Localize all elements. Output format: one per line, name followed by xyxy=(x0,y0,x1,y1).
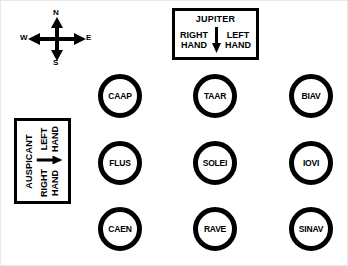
compass-north-label: N xyxy=(53,9,59,17)
node-sinav-label: SINAV xyxy=(299,225,323,234)
node-taar[interactable]: TAAR xyxy=(193,74,237,118)
node-iovi-label: IOVI xyxy=(303,159,319,168)
jupiter-right-hand-line2: HAND xyxy=(181,40,207,50)
node-caap-label: CAAP xyxy=(108,92,131,101)
node-caen-label: CAEN xyxy=(108,225,131,234)
node-flus-label: FLUS xyxy=(109,159,130,168)
node-biav[interactable]: BIAV xyxy=(289,74,333,118)
node-biav-label: BIAV xyxy=(302,92,321,101)
jupiter-left-hand-line2: HAND xyxy=(225,40,251,50)
node-rave[interactable]: RAVE xyxy=(193,207,237,251)
node-caen[interactable]: CAEN xyxy=(98,207,142,251)
node-flus[interactable]: FLUS xyxy=(98,141,142,185)
compass-cross-icon xyxy=(28,17,86,61)
auspicant-left-hand-label: LEFT HAND xyxy=(38,126,59,152)
node-taar-label: TAAR xyxy=(204,92,226,101)
compass-rose: N S W E xyxy=(19,9,95,67)
jupiter-left-hand-line1: LEFT xyxy=(227,30,250,40)
jupiter-left-hand-label: LEFT HAND xyxy=(225,30,251,51)
node-solei[interactable]: SOLEI xyxy=(193,141,237,185)
auspicant-left-hand-line1: LEFT xyxy=(38,127,48,150)
node-caap[interactable]: CAAP xyxy=(98,74,142,118)
jupiter-right-hand-line1: RIGHT xyxy=(180,30,208,40)
arrow-down-icon xyxy=(212,27,221,53)
auspicant-left-hand-line2: HAND xyxy=(49,126,59,152)
node-iovi[interactable]: IOVI xyxy=(289,141,333,185)
compass-west-label: W xyxy=(20,34,28,42)
compass-east-label: E xyxy=(86,34,91,42)
auspicant-hand-row: RIGHT HAND LEFT HAND xyxy=(36,126,62,197)
jupiter-title: JUPITER xyxy=(196,15,235,24)
auspicant-right-hand-line2: HAND xyxy=(49,170,59,196)
node-sinav[interactable]: SINAV xyxy=(289,207,333,251)
auspicant-right-hand-label: RIGHT HAND xyxy=(38,169,59,197)
jupiter-right-hand-label: RIGHT HAND xyxy=(180,30,208,51)
diagram-canvas: N S W E JUPITER RIGHT HAND xyxy=(0,0,348,266)
auspicant-title: AUSPICANT xyxy=(24,134,33,188)
auspicant-hand-box[interactable]: AUSPICANT RIGHT HAND LEFT HAND xyxy=(14,118,71,204)
jupiter-hand-box[interactable]: JUPITER RIGHT HAND LEFT HAND xyxy=(172,8,259,60)
jupiter-hand-row: RIGHT HAND LEFT HAND xyxy=(180,27,251,53)
node-rave-label: RAVE xyxy=(204,225,226,234)
auspicant-right-hand-line1: RIGHT xyxy=(38,169,48,197)
node-solei-label: SOLEI xyxy=(203,159,228,168)
arrow-right-icon xyxy=(36,156,62,165)
